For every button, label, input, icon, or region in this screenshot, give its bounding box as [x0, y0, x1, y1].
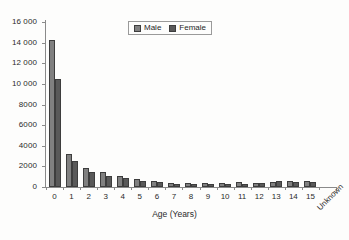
x-axis-tick-label: 15 — [306, 192, 315, 201]
bar-group — [285, 22, 302, 187]
x-axis-tick-label: 6 — [155, 192, 159, 201]
bar-group — [97, 22, 114, 187]
x-axis-tick-mark — [131, 187, 132, 190]
bar-female — [55, 79, 61, 187]
x-axis-tick-mark — [200, 187, 201, 190]
y-axis-tick-label: 0 — [32, 183, 37, 191]
bar-group — [234, 22, 251, 187]
bar-chart: 0200040006000800010 00012 00014 00016 00… — [0, 0, 349, 240]
x-axis-tick-label: 11 — [238, 192, 246, 201]
x-axis-tick-mark — [182, 187, 183, 190]
bar-group — [199, 22, 216, 187]
x-axis-tick-mark — [97, 187, 98, 190]
x-axis-tick-mark — [46, 187, 47, 190]
x-axis-tick-mark — [234, 187, 235, 190]
x-axis-tick-mark — [319, 187, 320, 190]
x-axis-tick-mark — [80, 187, 81, 190]
legend-swatch-icon — [169, 25, 176, 32]
legend-label: Male — [144, 24, 161, 32]
x-axis-tick-label: 10 — [221, 192, 230, 201]
legend-swatch-icon — [134, 25, 141, 32]
x-axis-tick-mark — [165, 187, 166, 190]
x-axis-tick-mark — [148, 187, 149, 190]
bar-female — [89, 172, 95, 187]
legend-entry-female: Female — [169, 24, 206, 32]
legend-entry-male: Male — [134, 24, 161, 32]
y-axis-tick-label: 6000 — [19, 121, 37, 129]
bar-group — [302, 22, 319, 187]
bar-group — [131, 22, 148, 187]
x-axis-tick-label: 3 — [103, 192, 107, 201]
x-axis-tick-label: 4 — [121, 192, 125, 201]
x-axis-tick-label: 12 — [255, 192, 264, 201]
x-axis-tick-mark — [217, 187, 218, 190]
y-axis-tick-label: 8000 — [19, 101, 37, 109]
bar-group — [46, 22, 63, 187]
x-axis-tick-label: Unknown — [316, 182, 346, 212]
x-axis-tick-mark — [302, 187, 303, 190]
chart-legend: MaleFemale — [128, 21, 212, 35]
x-axis-tick-mark — [63, 187, 64, 190]
bar-group — [114, 22, 131, 187]
y-axis-tick-label: 2000 — [19, 162, 37, 170]
x-axis-tick-label: 13 — [272, 192, 281, 201]
bar-group — [319, 22, 336, 187]
legend-label: Female — [179, 24, 206, 32]
y-axis: 0200040006000800010 00012 00014 00016 00… — [0, 0, 43, 240]
bar-group — [182, 22, 199, 187]
y-axis-tick-label: 10 000 — [12, 80, 37, 88]
y-axis-tick-label: 4000 — [19, 142, 37, 150]
x-axis-tick-label: 7 — [172, 192, 176, 201]
bar-group — [63, 22, 80, 187]
x-axis-title: Age (Years) — [0, 209, 349, 219]
x-axis-tick-mark — [114, 187, 115, 190]
bar-female — [106, 176, 112, 187]
bar-group — [251, 22, 268, 187]
x-axis-tick-label: 5 — [138, 192, 142, 201]
bar-female — [123, 178, 129, 187]
bar-female — [72, 161, 78, 187]
x-axis-tick-label: 2 — [86, 192, 90, 201]
bar-group — [80, 22, 97, 187]
x-axis-tick-label: 9 — [206, 192, 210, 201]
x-axis-tick-label: 8 — [189, 192, 193, 201]
y-axis-tick-label: 16 000 — [12, 18, 37, 26]
bar-group — [268, 22, 285, 187]
bar-group — [165, 22, 182, 187]
x-axis-tick-label: 1 — [69, 192, 73, 201]
bar-group — [148, 22, 165, 187]
x-axis-tick-mark — [268, 187, 269, 190]
bar-group — [216, 22, 233, 187]
bar-groups — [46, 22, 336, 187]
x-axis-tick-label: 14 — [289, 192, 298, 201]
y-axis-tick-label: 14 000 — [12, 39, 37, 47]
x-axis-tick-mark — [251, 187, 252, 190]
y-axis-tick-label: 12 000 — [12, 59, 37, 67]
x-axis-tick-label: 0 — [52, 192, 56, 201]
x-axis-tick-mark — [285, 187, 286, 190]
